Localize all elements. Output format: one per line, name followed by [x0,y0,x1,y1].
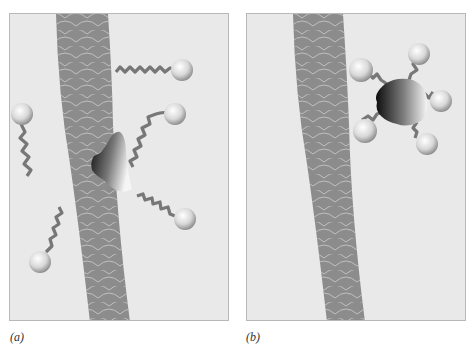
hair-fiber [293,14,365,321]
panel-b [246,13,466,321]
panel-a-label: (a) [10,330,24,345]
panel-b-label: (b) [246,330,260,345]
panel-a [9,13,229,321]
hair-fiber-illustration-a [10,14,229,321]
oily-dirt [376,79,427,126]
hair-fiber-illustration-b [247,14,466,321]
